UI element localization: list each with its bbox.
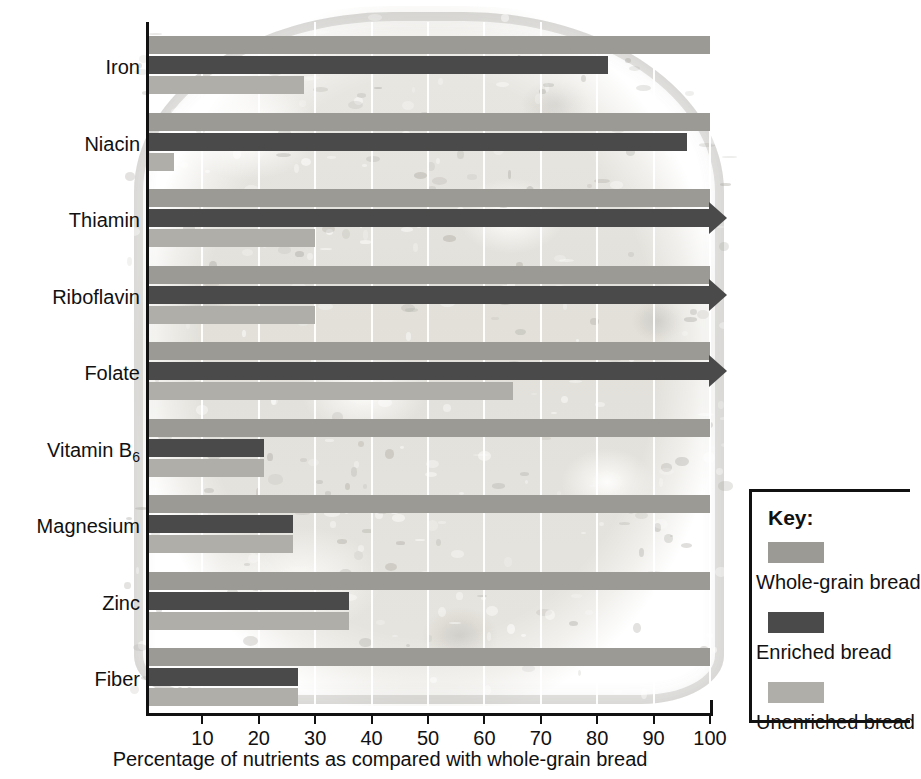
x-axis-tick-label: 20 bbox=[229, 727, 289, 749]
bar-whole bbox=[146, 495, 710, 513]
bar-unenriched bbox=[146, 612, 349, 630]
bar-whole bbox=[146, 572, 710, 590]
bar-enriched bbox=[146, 592, 349, 610]
bar-overflow-arrow-icon bbox=[709, 355, 727, 387]
legend-box: Key: Whole-grain breadEnriched breadUnen… bbox=[749, 489, 910, 723]
category-label-zinc: Zinc bbox=[102, 592, 140, 614]
x-axis-tick-label: 70 bbox=[511, 727, 571, 749]
category-label-riboflavin: Riboflavin bbox=[52, 286, 140, 308]
bar-enriched bbox=[146, 439, 264, 457]
bar-whole bbox=[146, 648, 710, 666]
x-axis-tick-label: 10 bbox=[172, 727, 232, 749]
bread-speck bbox=[722, 63, 731, 71]
bar-unenriched bbox=[146, 229, 315, 247]
bar-overflow-arrow-icon bbox=[709, 279, 727, 311]
bar-whole bbox=[146, 113, 710, 131]
bread-speck bbox=[713, 647, 717, 653]
legend-swatch-0 bbox=[768, 542, 824, 563]
x-axis-tick bbox=[258, 713, 260, 724]
x-axis-tick bbox=[371, 713, 373, 724]
bread-speck bbox=[501, 14, 509, 21]
x-axis-line bbox=[146, 713, 713, 716]
bar-unenriched bbox=[146, 153, 174, 171]
legend-label-1: Enriched bread bbox=[756, 641, 892, 663]
legend-swatch-2 bbox=[768, 682, 824, 703]
category-label-fiber: Fiber bbox=[94, 668, 140, 690]
category-label-thiamin: Thiamin bbox=[69, 209, 140, 231]
bar-whole bbox=[146, 266, 710, 284]
x-axis-tick bbox=[201, 713, 203, 724]
bar-unenriched bbox=[146, 76, 304, 94]
legend-title: Key: bbox=[768, 506, 814, 530]
bar-enriched bbox=[146, 56, 608, 74]
x-axis-tick-label: 90 bbox=[624, 727, 684, 749]
category-label-folate: Folate bbox=[84, 362, 140, 384]
x-axis-tick-label: 60 bbox=[454, 727, 514, 749]
legend-swatch-1 bbox=[768, 612, 824, 633]
bar-enriched bbox=[146, 515, 293, 533]
bar-enriched bbox=[146, 286, 710, 304]
bar-enriched bbox=[146, 133, 687, 151]
x-axis-tick bbox=[314, 713, 316, 724]
bar-whole bbox=[146, 419, 710, 437]
x-axis-tick-label: 30 bbox=[285, 727, 345, 749]
bread-speck bbox=[720, 183, 730, 186]
bar-unenriched bbox=[146, 688, 298, 706]
x-axis-tick-label: 100 bbox=[680, 727, 740, 749]
bar-enriched bbox=[146, 362, 710, 380]
x-axis-tick-label: 40 bbox=[342, 727, 402, 749]
plot-area bbox=[146, 22, 710, 712]
x-axis-left-cap bbox=[146, 700, 149, 716]
y-axis-line bbox=[146, 22, 149, 716]
bar-enriched bbox=[146, 668, 298, 686]
bar-unenriched bbox=[146, 306, 315, 324]
x-axis-tick-label: 50 bbox=[398, 727, 458, 749]
x-axis-title: Percentage of nutrients as compared with… bbox=[0, 748, 760, 770]
bar-unenriched bbox=[146, 535, 293, 553]
category-label-niacin: Niacin bbox=[84, 133, 140, 155]
category-label-iron: Iron bbox=[106, 56, 140, 78]
bread-speck bbox=[719, 242, 729, 251]
bread-speck bbox=[715, 567, 727, 577]
x-axis-tick bbox=[653, 713, 655, 724]
x-axis-tick-label: 80 bbox=[567, 727, 627, 749]
legend-label-0: Whole-grain bread bbox=[756, 571, 921, 593]
x-axis-tick bbox=[540, 713, 542, 724]
bar-whole bbox=[146, 342, 710, 360]
legend-label-2: Unenriched bread bbox=[756, 711, 915, 733]
category-label-magnesium: Magnesium bbox=[37, 515, 140, 537]
bar-overflow-arrow-icon bbox=[709, 202, 727, 234]
bar-enriched bbox=[146, 209, 710, 227]
bar-whole bbox=[146, 189, 710, 207]
category-label-vitamin-b6: Vitamin B6 bbox=[47, 439, 140, 468]
x-axis-tick bbox=[483, 713, 485, 724]
category-axis-labels: IronNiacinThiaminRiboflavinFolateVitamin… bbox=[0, 0, 140, 779]
bread-speck bbox=[718, 481, 734, 490]
bar-unenriched bbox=[146, 382, 513, 400]
bar-unenriched bbox=[146, 459, 264, 477]
x-axis-tick bbox=[427, 713, 429, 724]
bread-speck bbox=[718, 401, 724, 410]
bar-whole bbox=[146, 36, 710, 54]
x-axis-tick bbox=[596, 713, 598, 724]
x-axis-tick bbox=[709, 713, 711, 724]
